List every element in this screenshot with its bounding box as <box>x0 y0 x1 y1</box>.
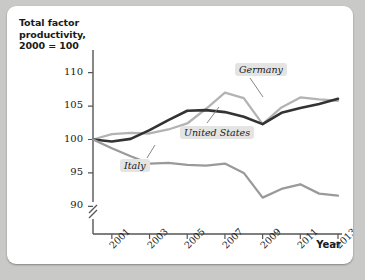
leader-line-germany <box>250 78 263 97</box>
y-tick-label: 105 <box>57 99 83 110</box>
series-label-united_states: United States <box>180 126 254 139</box>
series-label-italy: Italy <box>120 159 150 172</box>
y-tick-label: 110 <box>57 66 83 77</box>
figure-panel: Total factor productivity, 2000 = 100 Ye… <box>7 6 353 264</box>
y-tick-label: 95 <box>57 166 83 177</box>
leader-line-italy <box>147 145 155 158</box>
y-tick-label: 90 <box>57 199 83 210</box>
series-label-germany: Germany <box>235 63 287 76</box>
y-tick-label: 100 <box>57 133 83 144</box>
axis-break-icon <box>89 205 97 218</box>
